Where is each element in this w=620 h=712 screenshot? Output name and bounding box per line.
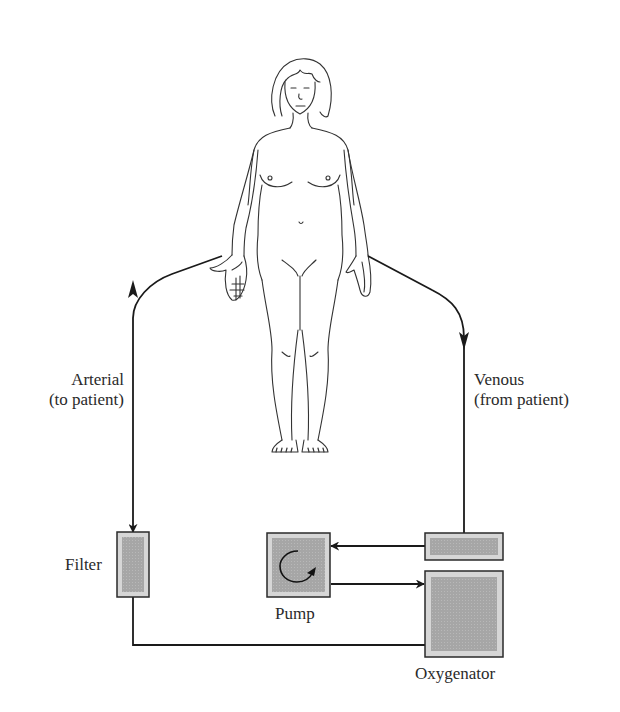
patient-figure [210, 59, 371, 452]
venous-label-line2: (from patient) [474, 390, 569, 410]
arterial-label-line2: (to patient) [40, 390, 124, 410]
arterial-label-line1: Arterial [40, 370, 124, 390]
oxygenator-box [425, 571, 503, 657]
filter-box [117, 532, 149, 597]
arterial-label: Arterial (to patient) [40, 370, 124, 410]
arterial-arrow-icon [128, 280, 138, 298]
venous-label-line1: Venous [474, 370, 569, 390]
venous-reservoir-box [425, 533, 503, 560]
venous-label: Venous (from patient) [474, 370, 569, 410]
filter-label: Filter [65, 555, 102, 575]
oxygenator-label: Oxygenator [415, 664, 495, 684]
pump-box [267, 533, 330, 597]
venous-line [368, 256, 464, 533]
arterial-line [133, 256, 222, 532]
pump-label: Pump [275, 604, 315, 624]
